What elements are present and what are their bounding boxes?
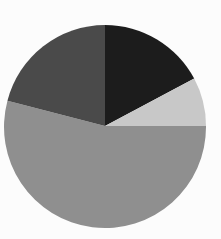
pie-chart-canvas (0, 0, 221, 239)
pie-slice-group (4, 25, 206, 228)
pie-chart-figure: Pie chart with four unlabeled gray-scale… (0, 0, 221, 239)
